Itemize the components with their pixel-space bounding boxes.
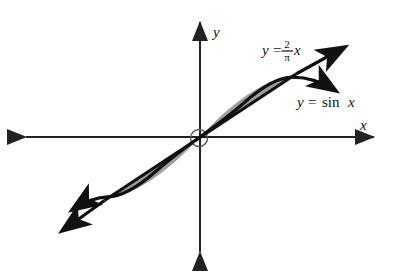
sine-eq-equals: = xyxy=(308,94,316,110)
sine-arrow-right xyxy=(292,77,336,91)
math-diagram: y x y = 2 π x y = sin x xyxy=(0,0,397,274)
y-axis-label: y xyxy=(211,24,220,40)
line-eq-y: y xyxy=(260,42,269,58)
sine-eq-function: sin xyxy=(322,94,340,110)
line-eq-equals: = xyxy=(273,42,281,58)
sine-eq-y: y xyxy=(295,94,304,110)
line-equation-label: y = 2 π x xyxy=(260,38,301,63)
line-arrow-upper-right xyxy=(296,47,345,74)
line-eq-numerator: 2 xyxy=(284,38,290,50)
figure-container: y x y = 2 π x y = sin x xyxy=(0,0,397,274)
sine-eq-variable: x xyxy=(347,94,355,110)
line-eq-denominator: π xyxy=(284,51,290,63)
line-curve xyxy=(62,47,345,231)
sine-equation-label: y = sin x xyxy=(295,94,355,110)
line-eq-variable: x xyxy=(293,42,301,58)
x-axis-label: x xyxy=(359,117,367,133)
